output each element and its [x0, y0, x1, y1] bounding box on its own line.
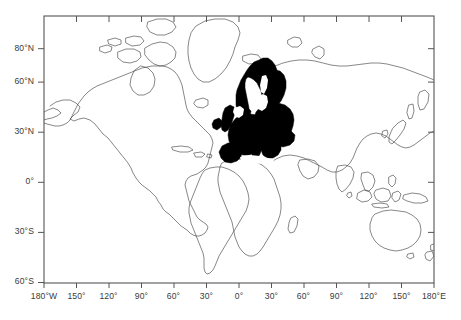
x-tick-label-0: 0° — [222, 291, 256, 301]
map-canvas — [0, 0, 461, 320]
y-tick-label-80N: 80°N — [0, 43, 34, 53]
x-ticks-bottom — [44, 283, 434, 288]
x-tick-label-30W: 30° — [187, 291, 226, 301]
y-ticks-left — [38, 49, 44, 283]
x-tick-label-180E: 180°E — [410, 291, 458, 301]
y-tick-label-0: 0° — [0, 176, 34, 186]
y-tick-label-60N: 60°N — [0, 76, 34, 86]
y-tick-label-30N: 30°N — [0, 126, 34, 136]
y-tick-label-60S: 60°S — [0, 276, 34, 286]
y-tick-label-30S: 30°S — [0, 226, 34, 236]
world-map-figure: 80°N 60°N 30°N 0° 30°S 60°S 180°W 150° 1… — [0, 0, 461, 320]
